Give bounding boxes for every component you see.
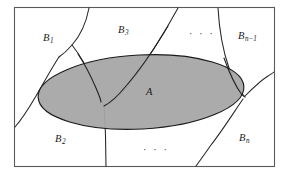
region-label-b3-sub: 3	[125, 29, 129, 37]
bottom-ellipsis: · · ·	[143, 145, 169, 155]
partition-diagram: B1 B3 Bn−1 B2 Bn A · · · · · ·	[0, 0, 289, 177]
top-ellipsis: · · ·	[189, 29, 215, 39]
region-label-bn-minus-1-base: B	[238, 30, 245, 41]
subscript-n: n	[245, 35, 249, 43]
region-label-b3: B3	[118, 25, 129, 37]
region-label-bn-base: B	[239, 132, 246, 143]
region-label-b2: B2	[55, 134, 66, 146]
region-label-bn-sub: n	[246, 137, 250, 145]
region-label-b3-base: B	[118, 24, 125, 35]
region-label-b1-sub: 1	[50, 37, 54, 45]
region-label-b1-base: B	[43, 32, 50, 43]
subscript-one: 1	[253, 35, 257, 43]
region-label-bn-minus-1: Bn−1	[238, 31, 257, 43]
region-label-b2-sub: 2	[62, 138, 66, 146]
region-label-b1: B1	[43, 33, 54, 45]
set-label-a: A	[146, 87, 153, 98]
region-label-bn-minus-1-sub: n−1	[245, 35, 257, 43]
region-label-b2-base: B	[55, 133, 62, 144]
region-label-bn: Bn	[239, 133, 250, 145]
